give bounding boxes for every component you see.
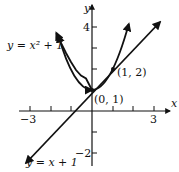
x-tick-label-neg3: −3 <box>20 113 36 126</box>
x-tick-label-3: 3 <box>150 113 157 126</box>
x-axis-label: x <box>171 97 178 110</box>
point-1-2 <box>111 67 115 71</box>
y-axis-label: y <box>83 2 91 15</box>
point-label-0-1: (0, 1) <box>94 93 124 106</box>
point-0-1 <box>90 88 94 92</box>
parabola-label: y = x² + 1 <box>6 39 63 52</box>
y-tick-label-4: 4 <box>83 21 90 34</box>
chart-canvas: y x 4 −2 −3 3 y = x² + 1 y = x + 1 (0, 1… <box>0 0 179 172</box>
line-label: y = x + 1 <box>25 156 78 169</box>
point-label-1-2: (1, 2) <box>117 66 147 79</box>
